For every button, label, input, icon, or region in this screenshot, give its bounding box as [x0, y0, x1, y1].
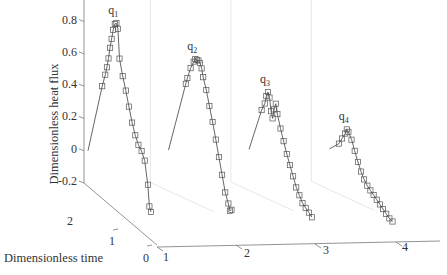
- curves: [88, 21, 395, 224]
- index-tick-label: 3: [323, 243, 329, 257]
- time-tick: [113, 229, 118, 230]
- value-tick: [79, 20, 84, 22]
- index-axis: [157, 241, 440, 247]
- curve-label-q3: q3: [260, 72, 270, 88]
- value-tick-label: 0.4: [62, 77, 77, 91]
- y-axis-title: Dimensionless heat flux: [47, 63, 61, 185]
- value-tick: [79, 149, 84, 151]
- fit-line: [169, 59, 232, 211]
- value-tick: [79, 181, 84, 183]
- labels: Dimensionless heat fluxDimensionless tim…: [4, 3, 349, 265]
- series-q2: [169, 57, 235, 214]
- curve-label-subscript: 3: [266, 79, 270, 88]
- waterfall-chart: -0.200.20.40.60.810121234 Dimensionless …: [0, 0, 447, 275]
- value-tick-label: 0: [71, 142, 77, 156]
- fit-line: [249, 92, 312, 217]
- time-tick: [147, 245, 152, 246]
- time-tick-label: 0: [143, 251, 149, 265]
- fit-line: [88, 23, 151, 212]
- time-axis: [84, 183, 157, 245]
- curve-label-q2: q2: [187, 39, 197, 55]
- index-tick-label: 1: [163, 250, 169, 264]
- curve-label-q1: q1: [108, 3, 118, 19]
- value-tick: [79, 52, 84, 54]
- value-tick-label: 0.2: [62, 109, 77, 123]
- index-tick: [315, 244, 321, 248]
- index-tick-label: 2: [244, 246, 250, 260]
- axes: -0.200.20.40.60.810121234: [58, 0, 440, 265]
- series-q1: [88, 21, 154, 215]
- index-tick-label: 4: [402, 240, 408, 254]
- value-tick: [79, 116, 84, 118]
- fit-line: [330, 129, 393, 221]
- curve-label-subscript: 2: [193, 46, 197, 55]
- time-tick-label: 2: [67, 214, 73, 228]
- series-q4: [330, 127, 396, 224]
- panel-floor-line: [150, 183, 213, 212]
- value-tick: [79, 84, 84, 86]
- time-tick-label: 1: [109, 234, 115, 248]
- series-q3: [249, 89, 315, 220]
- index-tick: [157, 247, 163, 251]
- curve-label-q4: q4: [339, 109, 349, 125]
- value-tick-label: 0.8: [62, 13, 77, 27]
- x-axis-title: Dimensionless time: [4, 251, 103, 265]
- panel-floor-line: [231, 182, 294, 211]
- curve-label-subscript: 4: [345, 116, 349, 125]
- value-tick-label: 0.6: [62, 45, 77, 59]
- curve-label-subscript: 1: [114, 10, 118, 19]
